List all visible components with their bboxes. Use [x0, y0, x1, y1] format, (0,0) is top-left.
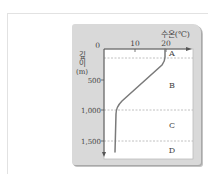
y-tick-1500: 1,500 [81, 138, 101, 146]
layer-label-c: C [169, 121, 175, 130]
layer-label-a: A [168, 49, 175, 58]
y-tick-1000: 1,000 [81, 107, 101, 115]
x-axis-title: 수온(℃) [161, 30, 190, 39]
temperature-depth-chart: 0 10 20 수온(℃) 500 1,000 1,500 깊 이 (m) A … [0, 0, 208, 174]
y-tick-500: 500 [88, 77, 101, 85]
x-tick-20: 20 [161, 39, 171, 48]
y-zero-label: 0 [95, 41, 100, 50]
x-tick-10: 10 [130, 39, 140, 48]
layer-label-d: D [169, 146, 175, 155]
y-axis-title-2: 이 [79, 58, 86, 68]
y-axis-title-unit: (m) [76, 68, 88, 76]
layer-label-b: B [169, 81, 175, 90]
plot-area [104, 49, 193, 159]
